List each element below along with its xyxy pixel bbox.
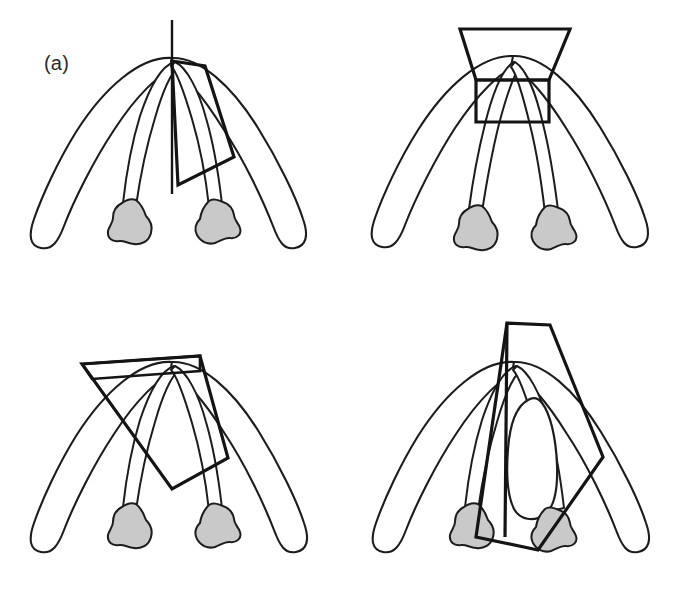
panel-a: (a) xyxy=(0,0,341,302)
foot-pad-left xyxy=(454,205,498,250)
panel-c: (c) xyxy=(342,0,683,302)
panel-b: (b) xyxy=(0,303,341,605)
foot-pad-left xyxy=(108,199,152,244)
foot-pad-right xyxy=(532,205,577,249)
panel-c-drawing xyxy=(342,0,683,302)
panel-a-drawing xyxy=(0,0,341,302)
swollen-inner-limb xyxy=(507,398,557,519)
panel-d-drawing xyxy=(342,303,683,605)
panel-d: (d) xyxy=(342,303,683,605)
panel-b-drawing xyxy=(0,303,341,605)
figure-root: (a) (c) xyxy=(0,0,683,605)
foot-pad-right xyxy=(196,503,241,547)
foot-pad-right xyxy=(196,199,241,243)
panel-label-a: (a) xyxy=(44,52,69,75)
overlay-pentagon-inner-edge xyxy=(505,323,507,537)
foot-pad-left xyxy=(450,503,494,548)
outer-left-limb xyxy=(372,56,517,247)
foot-pad-left xyxy=(108,503,152,548)
